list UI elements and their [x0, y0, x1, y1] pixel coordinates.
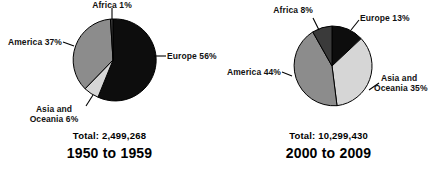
label-asia-oceania-line2: Oceania 6% — [20, 114, 88, 125]
label-europe: Europe 56% — [167, 51, 217, 62]
leader-line-africa — [313, 18, 319, 30]
label-africa: Africa 8% — [253, 5, 313, 16]
label-america: America 44% — [217, 67, 281, 78]
pie-chart-1950-1959: Africa 1% Europe 56% America 37% Asia an… — [0, 0, 219, 173]
pie-chart-2000-2009: Africa 8% Europe 13% America 44% Asia an… — [219, 0, 438, 173]
leader-line-america — [63, 42, 74, 46]
total-caption: Total: 2,499,268 — [0, 130, 219, 141]
total-caption: Total: 10,299,430 — [219, 130, 438, 141]
label-africa: Africa 1% — [62, 0, 162, 11]
leader-line-europe — [351, 20, 359, 30]
label-europe: Europe 13% — [360, 13, 410, 24]
label-asia-oceania-line1: Asia and — [23, 104, 85, 115]
label-america: America 37% — [0, 37, 62, 48]
period-caption: 1950 to 1959 — [0, 145, 219, 161]
label-asia-oceania-line1: Asia and — [381, 73, 417, 84]
period-caption: 2000 to 2009 — [219, 145, 438, 161]
label-asia-oceania-line2: Oceania 35% — [374, 83, 428, 94]
leader-line-asia-oceania — [86, 95, 93, 106]
leader-line-america — [282, 72, 292, 76]
figure-canvas: Africa 1% Europe 56% America 37% Asia an… — [0, 0, 438, 173]
